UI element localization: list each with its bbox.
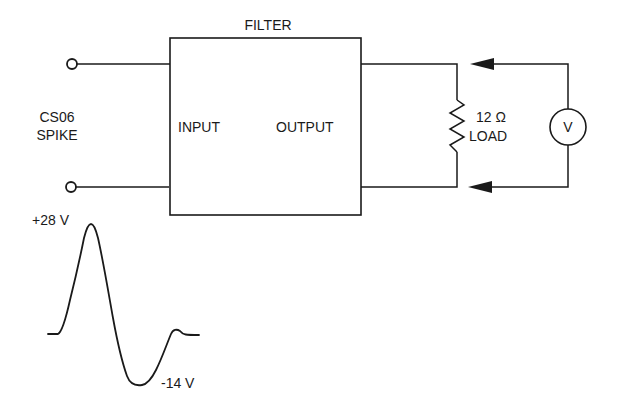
- filter-input-label: INPUT: [178, 119, 220, 135]
- arrow-left-icon-bottom: [468, 181, 492, 193]
- load-label: LOAD: [469, 128, 507, 144]
- filter-output-label: OUTPUT: [276, 119, 334, 135]
- output-wire-bottom: [361, 152, 457, 187]
- output-wire-top: [361, 64, 457, 100]
- spike-waveform: [48, 224, 199, 385]
- voltmeter-symbol: V: [560, 119, 576, 135]
- waveform-peak-label: +28 V: [32, 212, 69, 228]
- source-label-line2: SPIKE: [28, 127, 86, 143]
- waveform-trough-label: -14 V: [161, 375, 194, 391]
- load-resistance: 12 Ω: [476, 109, 506, 125]
- input-terminal-top: [67, 59, 77, 69]
- source-label-line1: CS06: [28, 109, 86, 125]
- voltmeter-wire-bottom: [480, 145, 568, 187]
- input-terminal-bottom: [66, 182, 76, 192]
- source-label: CS06 SPIKE: [28, 109, 86, 143]
- arrow-left-icon-top: [470, 58, 494, 70]
- resistor-icon: [450, 100, 464, 152]
- voltmeter-wire-top: [480, 64, 568, 109]
- filter-title: FILTER: [238, 17, 298, 33]
- circuit-diagram: [0, 0, 617, 410]
